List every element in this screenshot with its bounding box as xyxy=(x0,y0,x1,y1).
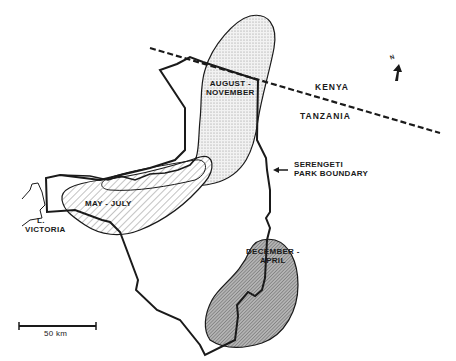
label-lake-abbrev: L. xyxy=(25,216,65,225)
label-park-boundary: PARK BOUNDARY xyxy=(294,169,368,178)
label-april-line: APRIL xyxy=(246,256,300,265)
label-august-line: AUGUST - xyxy=(206,79,255,88)
label-kenya: KENYA xyxy=(315,83,349,92)
region-may-july xyxy=(62,156,212,234)
north-arrow-icon xyxy=(393,64,402,81)
park-boundary-arrowhead xyxy=(273,167,279,173)
migration-map xyxy=(0,0,456,361)
label-serengeti-park-boundary: SERENGETI PARK BOUNDARY xyxy=(294,160,368,178)
label-november-line: NOVEMBER xyxy=(206,88,255,97)
label-december-april: DECEMBER - APRIL xyxy=(246,247,300,265)
label-serengeti: SERENGETI xyxy=(294,160,368,169)
label-august-november: AUGUST - NOVEMBER xyxy=(206,79,255,97)
kenya-tanzania-border xyxy=(150,48,440,133)
label-tanzania: TANZANIA xyxy=(300,112,351,121)
label-scale: 50 km xyxy=(44,329,67,338)
label-victoria: VICTORIA xyxy=(25,225,65,234)
label-may-july: MAY - JULY xyxy=(85,199,132,208)
label-december-line: DECEMBER - xyxy=(246,247,300,256)
label-lake-victoria: L. VICTORIA xyxy=(25,216,65,234)
